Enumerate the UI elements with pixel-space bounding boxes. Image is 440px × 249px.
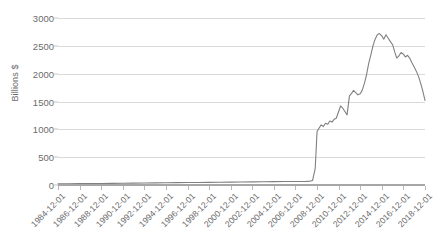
x-axis-ticks: 1984-12-011986-12-011988-12-011990-12-01…	[0, 0, 440, 249]
x-tick-mark	[123, 186, 124, 190]
x-tick-mark	[80, 186, 81, 190]
x-tick-mark	[166, 186, 167, 190]
x-tick-mark	[101, 186, 102, 190]
x-tick-mark	[58, 186, 59, 190]
x-tick-mark	[403, 186, 404, 190]
x-tick-mark	[425, 186, 426, 190]
x-tick-mark	[188, 186, 189, 190]
x-tick-mark	[295, 186, 296, 190]
line-chart: Billions $ 300025002000150010005000 1984…	[0, 0, 440, 249]
x-tick-mark	[317, 186, 318, 190]
x-tick-mark	[360, 186, 361, 190]
x-tick-mark	[231, 186, 232, 190]
x-tick-mark	[274, 186, 275, 190]
x-tick-mark	[144, 186, 145, 190]
x-tick-mark	[382, 186, 383, 190]
x-tick-mark	[209, 186, 210, 190]
x-tick-mark	[339, 186, 340, 190]
x-tick-mark	[252, 186, 253, 190]
